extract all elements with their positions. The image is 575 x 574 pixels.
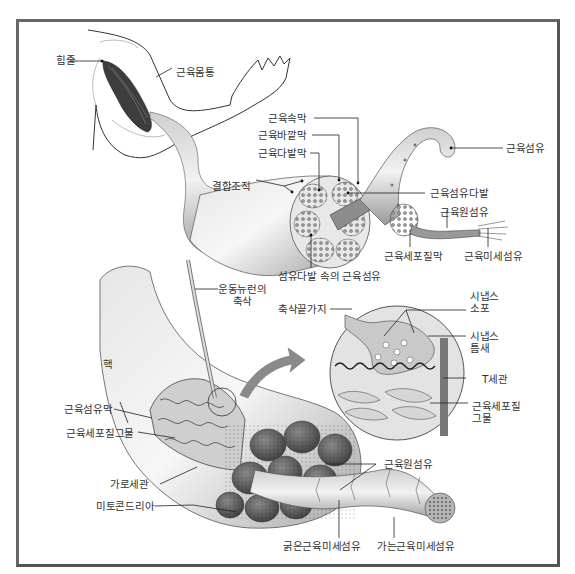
label-synaptic-cleft-line2: 틈새	[470, 342, 499, 354]
label-synaptic-vesicle-line2: 소포	[470, 302, 499, 314]
label-sr-line2: 그물	[472, 412, 521, 424]
biceps-muscle	[103, 61, 152, 132]
label-motor-neuron-axon: 운동뉴런의 축삭	[218, 283, 267, 307]
label-epimysium: 근육속막	[268, 112, 307, 124]
label-sr-line1: 근육세포질	[472, 400, 521, 412]
synapse-magnified	[330, 306, 464, 440]
label-muscle-fiber-bundle: 근육섬유다발	[430, 187, 488, 199]
label-sarcoplasmic-reticulum-right: 근육세포질 그물	[472, 400, 521, 424]
label-motor-neuron-axon-line1: 운동뉴런의	[218, 283, 267, 295]
label-synaptic-cleft-line1: 시냅스	[470, 330, 499, 342]
label-sarcolemma: 근육세포질막	[384, 250, 442, 262]
label-thin-filament: 가는근육미세섬유	[377, 540, 455, 552]
muscle-illustration	[0, 0, 575, 574]
label-thick-filament: 굵은근육미세섬유	[283, 540, 361, 552]
label-sarcoplasmic-reticulum: 근육세포질그물	[66, 427, 134, 439]
label-t-tubule: T세관	[482, 373, 508, 385]
label-fascicle-membrane: 근육다발막	[258, 147, 307, 159]
label-connective-tissue: 결합조직	[212, 180, 251, 192]
label-myofibril-top: 근육원섬유	[440, 206, 489, 218]
label-tendon: 힘줄	[56, 54, 75, 66]
label-myofilament: 근육미세섬유	[464, 250, 522, 262]
label-synaptic-cleft: 시냅스 틈새	[470, 330, 499, 354]
label-nucleus: 핵	[103, 358, 113, 370]
label-perimysium: 근육바깥막	[258, 129, 307, 141]
label-fibers-in-bundle: 섬유다발 속의 근육섬유	[278, 270, 381, 282]
label-synaptic-vesicle: 시냅스 소포	[470, 290, 499, 314]
label-mitochondria: 미토콘드리아	[96, 500, 154, 512]
label-transverse-tubule: 가로세관	[110, 478, 149, 490]
label-muscle-belly: 근육몸통	[176, 66, 215, 78]
label-motor-neuron-axon-line2: 축삭	[218, 295, 267, 307]
label-endomysium: 근육섬유막	[64, 403, 113, 415]
label-synaptic-vesicle-line1: 시냅스	[470, 290, 499, 302]
label-axon-terminal: 축삭끝가지	[278, 303, 327, 315]
label-myofibril-bottom: 근육원섬유	[384, 458, 433, 470]
label-muscle-fiber: 근육섬유	[506, 142, 545, 154]
